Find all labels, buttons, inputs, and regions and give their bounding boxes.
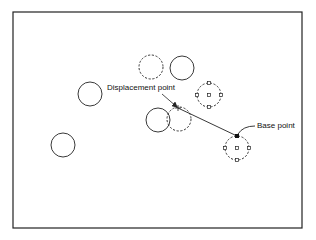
grip-square-icon bbox=[207, 81, 210, 84]
diagram-canvas bbox=[0, 0, 316, 240]
grip-square-icon bbox=[219, 93, 222, 96]
grip-square-icon bbox=[235, 146, 238, 149]
base-point-marker-icon bbox=[235, 134, 239, 138]
drawing-frame bbox=[13, 12, 302, 228]
grip-square-icon bbox=[195, 93, 198, 96]
grip-square-icon bbox=[223, 146, 226, 149]
grip-square-icon bbox=[207, 93, 210, 96]
grip-square-icon bbox=[207, 105, 210, 108]
grip-square-icon bbox=[235, 158, 238, 161]
base-point-label: Base point bbox=[257, 122, 295, 130]
displacement-point-label: Displacement point bbox=[107, 84, 175, 92]
grip-square-icon bbox=[247, 146, 250, 149]
